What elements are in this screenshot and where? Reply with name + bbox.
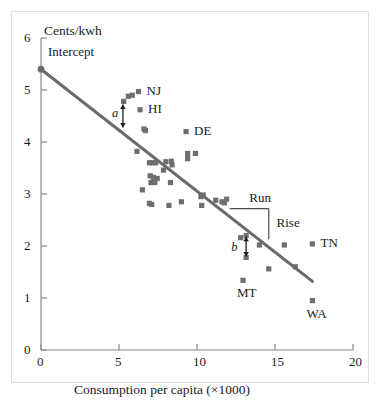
data-point-label-mt: MT <box>237 285 257 301</box>
data-point <box>130 93 135 98</box>
data-point-label-tn: TN <box>320 235 337 251</box>
regression-line <box>41 69 312 281</box>
data-point <box>121 99 126 104</box>
data-point <box>149 202 154 207</box>
data-point <box>136 89 141 94</box>
y-tick-label: 5 <box>24 82 31 98</box>
x-axis-ticks <box>41 344 353 350</box>
data-point-label-de: DE <box>194 123 211 139</box>
x-axis-title: Consumption per capita (×1000) <box>74 382 250 398</box>
y-tick-label: 6 <box>24 30 31 46</box>
data-point <box>168 180 173 185</box>
residual-arrow-a-head-down <box>120 123 126 128</box>
y-tick-label: 3 <box>24 186 31 202</box>
data-point <box>183 129 188 134</box>
annotation-rise: Rise <box>277 215 300 231</box>
y-axis-title: Cents/kwh <box>44 23 102 39</box>
y-tick-label: 4 <box>24 134 31 150</box>
data-point <box>199 203 204 208</box>
data-point <box>140 187 145 192</box>
data-point <box>185 156 190 161</box>
data-point <box>266 266 271 271</box>
data-point <box>137 107 142 112</box>
data-point-label-wa: WA <box>306 306 326 322</box>
data-point-label-nj: NJ <box>147 83 161 99</box>
data-point <box>282 242 287 247</box>
data-point <box>134 149 139 154</box>
figure-container: 0123456 05101520 Cents/kwh Consumption p… <box>0 0 383 415</box>
data-point <box>152 180 157 185</box>
y-tick-label: 1 <box>24 290 31 306</box>
x-tick-label: 5 <box>115 354 122 370</box>
regression-line-group <box>38 66 313 282</box>
data-point <box>169 162 174 167</box>
y-axis-ticks <box>41 38 47 350</box>
x-tick-label: 20 <box>349 354 362 370</box>
scatter-plot-canvas <box>0 0 383 415</box>
data-point <box>310 241 315 246</box>
data-point <box>166 203 171 208</box>
x-tick-label: 15 <box>271 354 284 370</box>
intercept-marker <box>38 66 45 73</box>
y-tick-label: 2 <box>24 238 31 254</box>
data-point-label-hi: HI <box>148 101 162 117</box>
data-point <box>143 128 148 133</box>
data-point <box>213 198 218 203</box>
data-point <box>185 151 190 156</box>
data-point <box>310 298 315 303</box>
annotation-residual-a: a <box>112 106 118 121</box>
x-tick-label: 10 <box>193 354 206 370</box>
axis-lines <box>41 38 353 350</box>
data-point <box>222 200 227 205</box>
annotation-intercept: Intercept <box>48 44 94 60</box>
annotation-residual-b: b <box>231 240 237 255</box>
data-point <box>179 199 184 204</box>
x-tick-label: 0 <box>37 354 44 370</box>
data-point <box>240 278 245 283</box>
residual-arrow-a-head-up <box>120 105 126 110</box>
data-point <box>238 235 243 240</box>
y-tick-label: 0 <box>24 342 31 358</box>
data-point <box>193 151 198 156</box>
data-point-group <box>121 89 315 303</box>
annotation-run: Run <box>249 190 271 206</box>
